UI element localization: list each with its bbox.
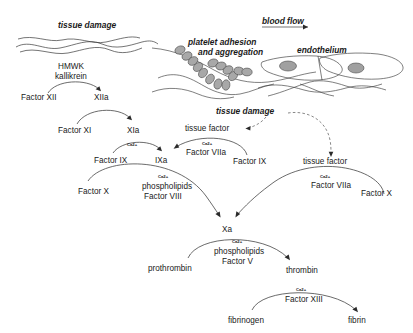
label-kallikrein: kallikrein [55,72,87,81]
label-ca-ix: Ca2+ [127,142,138,147]
label-xa: Xa [222,225,232,234]
label-ca-tenase: Ca2+ [158,174,169,179]
label-xiia: XIIa [94,93,109,102]
label-ixa: IXa [155,156,168,165]
label-factor-v: Factor V [222,257,253,266]
label-ca-tf-right: Ca2+ [320,174,331,179]
arrow-ix-to-ixa-left [113,142,162,153]
label-factor-ix-right: Factor IX [233,157,267,166]
label-tissue-damage-left: tissue damage [58,20,117,30]
label-endothelium: endothelium [297,45,347,55]
label-factor-ix-left: Factor IX [94,156,128,165]
label-fibrin: fibrin [348,316,366,325]
label-factor-xii: Factor XII [21,93,57,102]
label-platelet-adhesion-line1: platelet adhesion [187,37,256,47]
label-phospholipids-tenase: phospholipids [142,182,192,191]
tissue-damage-wavy-lines [16,37,158,54]
coagulation-cascade-diagram: tissue damage blood flow platelet adhesi… [0,0,413,333]
label-thrombin: thrombin [286,266,318,275]
label-phospholipids-prothrombinase: phospholipids [214,247,264,256]
label-factor-viia-left: Factor VIIa [186,148,226,157]
dashed-arrow-tissue-damage-to-tf-right [288,112,333,157]
dashed-arrow-tissue-damage-to-tf-left [245,117,266,131]
label-ca-prothrombinase: Ca2+ [232,239,243,244]
arrow-xii-to-xiia [48,82,101,93]
label-factor-viii: Factor VIII [144,192,182,201]
label-fibrinogen: fibrinogen [228,316,264,325]
label-tissue-damage-mid: tissue damage [216,106,275,116]
label-factor-xi: Factor XI [58,126,91,135]
label-platelet-adhesion-line2: and aggregation [198,47,263,57]
label-hmwk: HMWK [58,62,84,71]
label-factor-viia-right: Factor VIIa [311,181,351,190]
label-ca-fibrin: Ca2+ [296,287,307,292]
label-factor-xiii: Factor XIII [285,295,323,304]
label-xia: XIa [127,126,140,135]
label-factor-x-right: Factor X [361,189,392,198]
vessel-wall-illustration [152,44,403,98]
label-tissue-factor-right: tissue factor [303,157,347,166]
label-ca-tf-left: Ca2+ [202,141,213,146]
label-blood-flow: blood flow [262,16,304,26]
label-tissue-factor-left: tissue factor [185,124,229,133]
arrow-xi-to-xia [77,110,132,124]
label-factor-x-left: Factor X [78,187,109,196]
label-prothrombin: prothrombin [148,264,192,273]
diagram-canvas: tissue damage blood flow platelet adhesi… [0,0,413,333]
